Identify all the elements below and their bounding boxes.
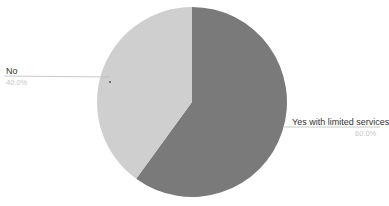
leader-dot-no [109, 81, 111, 83]
percent-yes-with-limited-services: 60.0% [355, 129, 376, 138]
label-yes-with-limited-services: Yes with limited services [292, 117, 389, 127]
leader-line-no [4, 76, 110, 77]
label-no: No [6, 66, 18, 76]
percent-no: 40.0% [6, 78, 27, 87]
